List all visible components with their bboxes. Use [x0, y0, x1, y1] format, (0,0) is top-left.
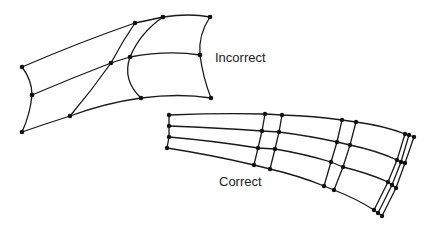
- correct-row-2: [169, 126, 405, 163]
- incorrect-skewed-line: [70, 23, 135, 116]
- incorrect-curved-line: [128, 17, 163, 98]
- incorrect-mesh: Incorrect: [20, 15, 266, 135]
- correct-row-4: [167, 148, 382, 216]
- correct-col-6: [374, 134, 405, 210]
- incorrect-right-edge: [200, 17, 211, 98]
- incorrect-nodes: [20, 15, 214, 135]
- correct-label: Correct: [219, 174, 262, 189]
- correct-col-1: [167, 115, 169, 148]
- correct-col-3: [270, 115, 282, 169]
- correct-row-3: [169, 137, 396, 188]
- correct-mesh: Correct: [165, 112, 416, 218]
- correct-col-2: [254, 114, 265, 165]
- incorrect-top-edge: [22, 15, 210, 67]
- incorrect-label: Incorrect: [215, 50, 266, 65]
- correct-col-5: [334, 122, 356, 190]
- correct-col-7: [378, 135, 409, 213]
- correct-col-8: [382, 137, 414, 216]
- incorrect-middle-line: [32, 53, 200, 95]
- incorrect-left-edge: [22, 67, 32, 132]
- mesh-diagram: Incorrect Correct: [0, 0, 433, 231]
